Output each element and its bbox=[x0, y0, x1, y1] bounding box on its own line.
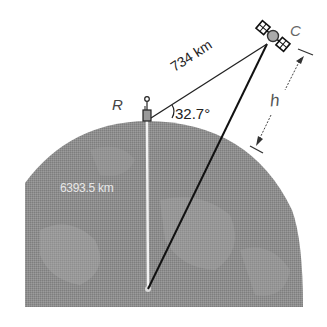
ground-station-antenna-icon bbox=[143, 97, 151, 121]
station-label: R bbox=[112, 97, 123, 112]
satellite-icon bbox=[256, 21, 290, 52]
diagram-canvas bbox=[0, 0, 327, 327]
height-dimension bbox=[250, 49, 313, 153]
earth-radius-line bbox=[147, 121, 148, 289]
elevation-angle-label: 32.7° bbox=[175, 106, 210, 121]
satellite-label: C bbox=[290, 23, 301, 38]
height-label: h bbox=[269, 92, 280, 110]
earth bbox=[25, 121, 303, 307]
satellite-geometry-diagram: R C h 734 km 32.7° 6393.5 km bbox=[0, 0, 327, 327]
elevation-angle-arc bbox=[172, 105, 174, 118]
earth-radius-label: 6393.5 km bbox=[60, 182, 113, 194]
